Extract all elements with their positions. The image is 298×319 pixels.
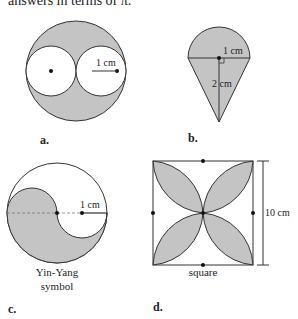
figure-c-dimension: 1 cm (80, 199, 100, 210)
figure-a-dimension: 1 cm (96, 57, 116, 68)
figure-b-height: 2 cm (212, 78, 232, 89)
figure-b: 1 cm 2 cm (188, 27, 250, 122)
figure-b-label: b. (188, 131, 198, 146)
figure-b-radius: 1 cm (223, 45, 243, 56)
figure-c-caption-line2: symbol (27, 280, 87, 292)
figure-d: 10 cm (151, 159, 290, 267)
figure-d-label: d. (153, 300, 163, 315)
figure-c: 1 cm (7, 163, 107, 263)
figure-c-caption-line1: Yin-Yang (27, 266, 87, 278)
figure-a-label: a. (40, 133, 49, 148)
figure-a: 1 cm (26, 21, 126, 121)
figure-c-label: c. (8, 302, 16, 317)
figure-d-dimension: 10 cm (265, 207, 290, 218)
figure-d-caption: square (173, 266, 233, 278)
